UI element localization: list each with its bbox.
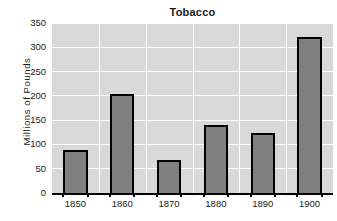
gridline-vertical — [193, 23, 194, 193]
y-axis-tick-label: 50 — [6, 164, 46, 174]
x-axis-tick-labels: 185018601870188018901900 — [52, 198, 333, 214]
x-axis-tick-label: 1870 — [159, 198, 180, 210]
gridline-vertical — [99, 23, 100, 193]
x-axis-tick-mark — [321, 193, 323, 197]
x-axis-tick-mark — [274, 193, 276, 197]
y-axis-tick-label: 0 — [6, 188, 46, 198]
x-axis-tick-mark — [87, 193, 89, 197]
gridline-vertical — [286, 23, 287, 193]
x-axis-tick-mark — [109, 193, 111, 197]
bar — [297, 37, 321, 193]
x-axis-tick-mark — [296, 193, 298, 197]
x-axis-tick-label: 1900 — [299, 198, 320, 210]
x-axis-tick-label: 1860 — [112, 198, 133, 210]
chart-title: Tobacco — [50, 6, 335, 18]
bar — [251, 133, 275, 193]
y-axis-tick-label: 100 — [6, 139, 46, 149]
bar — [204, 125, 228, 193]
y-axis-tick-label: 150 — [6, 115, 46, 125]
x-axis-tick-mark — [62, 193, 64, 197]
gridline-vertical — [239, 23, 240, 193]
y-axis-tick-label: 300 — [6, 42, 46, 52]
x-axis-tick-label: 1890 — [252, 198, 273, 210]
plot-area — [52, 23, 333, 193]
x-axis-tick-label: 1880 — [205, 198, 226, 210]
bar-chart: Tobacco Millions of Pounds 0501001502002… — [0, 0, 337, 221]
bar — [157, 160, 181, 193]
x-axis-tick-mark — [227, 193, 229, 197]
y-axis-tick-label: 200 — [6, 91, 46, 101]
bar — [63, 150, 87, 193]
x-axis-tick-mark — [250, 193, 252, 197]
x-axis-tick-mark — [133, 193, 135, 197]
y-axis-tick-label: 250 — [6, 67, 46, 77]
x-axis-tick-mark — [203, 193, 205, 197]
y-axis-tick-labels: 050100150200250300350 — [0, 0, 52, 221]
x-axis-tick-mark — [156, 193, 158, 197]
x-axis-tick-label: 1850 — [65, 198, 86, 210]
x-axis-tick-mark — [180, 193, 182, 197]
x-axis-line — [52, 193, 333, 195]
gridline-vertical — [146, 23, 147, 193]
bar — [110, 94, 134, 193]
y-axis-tick-label: 350 — [6, 18, 46, 28]
